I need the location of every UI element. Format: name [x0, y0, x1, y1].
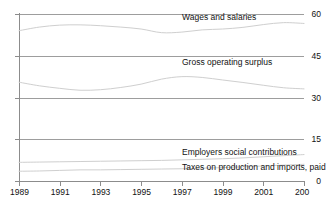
y-tick-label-45: 45	[305, 52, 321, 61]
series-label-wages-and-salaries: Wages and salaries	[182, 13, 256, 22]
gridline-0	[19, 181, 304, 182]
x-tick-label-1993: 1993	[91, 188, 110, 197]
y-tick-label-15: 15	[305, 135, 321, 144]
series-label-taxes-on-production-and-imports-paid: Taxes on production and imports, paid	[182, 163, 326, 172]
series-line-wages-and-salaries	[19, 23, 304, 33]
x-tick-label-1989: 1989	[10, 188, 29, 197]
y-tick-label-30: 30	[305, 94, 321, 103]
x-tick-label-2001: 2001	[254, 188, 273, 197]
y-tick-label-0: 0	[305, 177, 321, 186]
chart-title-clipped	[19, 0, 139, 2]
y-tick-label-60: 60	[305, 10, 321, 19]
x-tick-label-1995: 1995	[132, 188, 151, 197]
series-label-employers-social-contributions: Employers social contributions	[182, 148, 297, 157]
x-tick-label-1999: 1999	[214, 188, 233, 197]
series-line-gross-operating-surplus	[19, 77, 304, 91]
x-tick-label-1997: 1997	[173, 188, 192, 197]
x-tick-label-1991: 1991	[51, 188, 70, 197]
x-tick-label-2003: 200	[295, 188, 309, 197]
series-label-gross-operating-surplus: Gross operating surplus	[182, 58, 272, 67]
x-tick-mark-2003	[304, 181, 305, 186]
